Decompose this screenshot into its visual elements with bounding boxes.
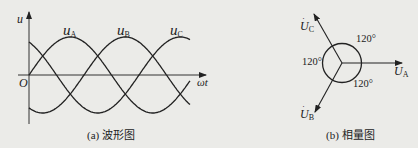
x-axis-label: ωt (197, 76, 208, 88)
series-label-uA: uA (63, 22, 76, 39)
phasor-UB (315, 63, 342, 112)
series-label-uB: uB (117, 22, 130, 39)
phasor-label-UC: ·UC (300, 19, 314, 34)
y-axis-label: u (17, 12, 23, 27)
origin-label: O (19, 76, 28, 91)
angle-label-left: 120° (302, 56, 322, 67)
angle-label-bottom: 120° (353, 78, 373, 89)
angle-label-top: 120° (356, 33, 376, 44)
phasor-label-UA: ·UA (394, 64, 408, 79)
phasor-label-UB: ·UB (300, 107, 314, 122)
caption-waveform: (a) 波形图 (87, 126, 135, 142)
caption-phasor: (b) 相量图 (326, 126, 375, 142)
series-label-uC: uC (170, 22, 183, 39)
